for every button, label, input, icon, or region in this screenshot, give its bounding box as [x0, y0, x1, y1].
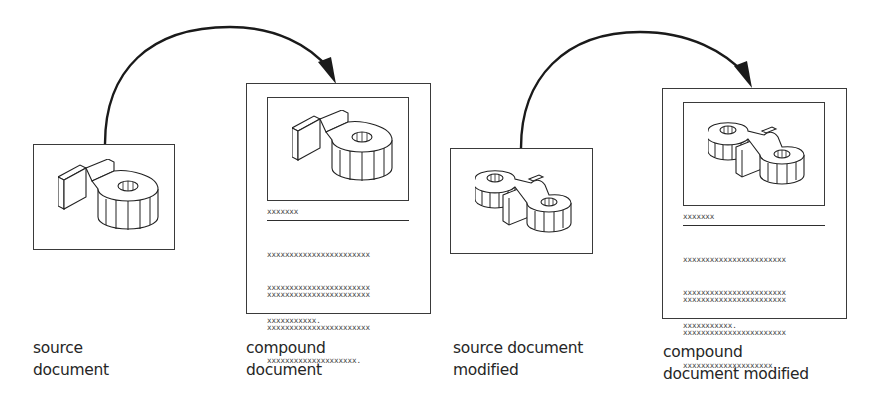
link-part-icon	[708, 117, 808, 192]
bracket-part-icon	[58, 159, 168, 239]
doc-heading: xxxxxxx	[683, 211, 714, 222]
source-document-modified-frame	[450, 148, 593, 254]
caption-compound-document: compound document	[246, 337, 326, 381]
caption-source-document-modified: source document modified	[453, 337, 583, 381]
embedded-image-frame	[267, 97, 409, 201]
arrowhead-icon	[734, 61, 752, 88]
source-document-frame	[33, 144, 175, 250]
link-part-icon	[475, 165, 575, 240]
doc-heading: xxxxxxx	[267, 206, 298, 217]
arrowhead-icon	[318, 57, 336, 84]
bracket-part-icon	[292, 110, 402, 190]
compound-document-page: xxxxxxx xxxxxxxxxxxxxxxxxxxxxxx xxxxxxxx…	[246, 83, 431, 314]
caption-source-document: source document	[33, 337, 109, 381]
caption-compound-document-modified: compound document modified	[663, 341, 809, 385]
heading-divider	[267, 220, 409, 221]
compound-document-modified-page: xxxxxxx xxxxxxxxxxxxxxxxxxxxxxx xxxxxxxx…	[662, 88, 847, 319]
embedded-image-frame	[683, 102, 825, 206]
heading-divider	[683, 225, 825, 226]
